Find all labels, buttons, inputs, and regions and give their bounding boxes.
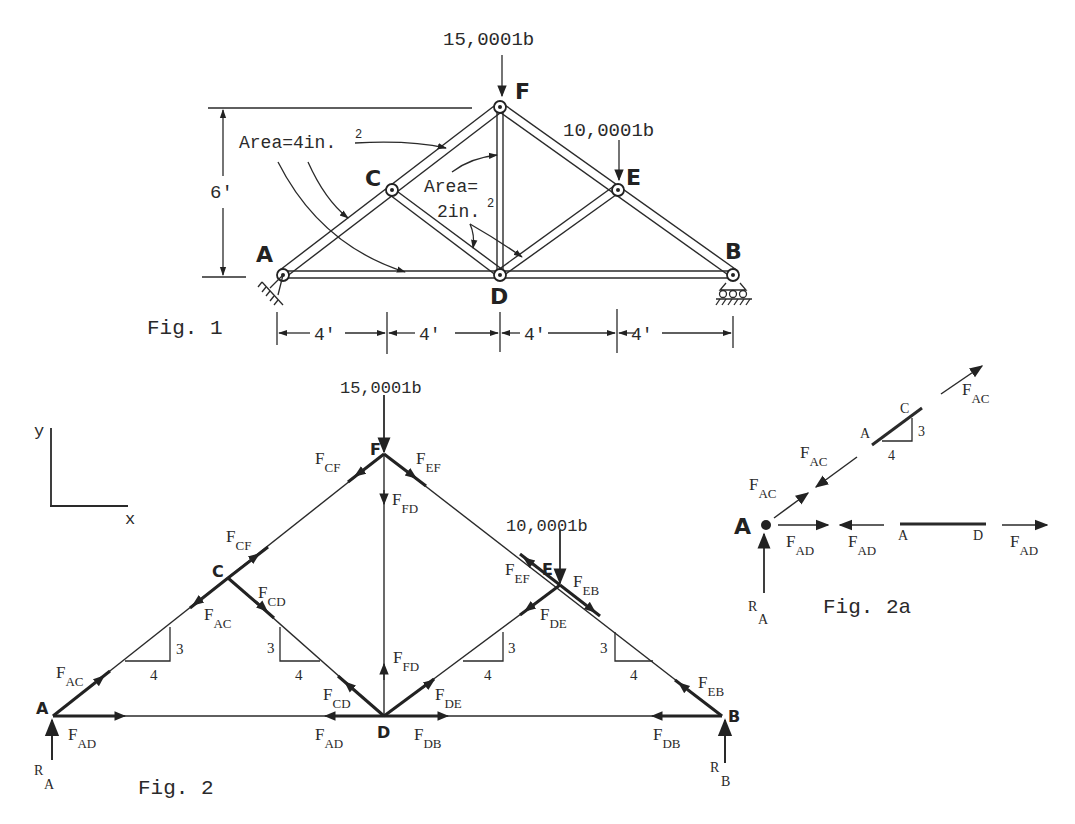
svg-text:4: 4 bbox=[888, 448, 895, 463]
figure-2a-caption: Fig. 2a bbox=[823, 596, 911, 619]
fbd-joint-a: A bbox=[36, 699, 49, 718]
fbd-joint-e: E bbox=[542, 560, 553, 579]
svg-text:FDB: FDB bbox=[414, 725, 442, 751]
svg-text:FEB: FEB bbox=[698, 673, 724, 699]
svg-text:FCF: FCF bbox=[315, 449, 340, 475]
span-label-eb: 4' bbox=[631, 325, 653, 345]
svg-text:FAD: FAD bbox=[1010, 532, 1038, 558]
slope-triangles: 4 3 4 3 4 3 4 3 bbox=[125, 627, 653, 683]
svg-text:D: D bbox=[973, 528, 983, 543]
pin-joints bbox=[277, 101, 739, 281]
joint-label-b: B bbox=[725, 239, 742, 264]
force-labels: FCF FEF FFD FCF FCD FAC FEF FEB FDE FAC … bbox=[56, 449, 724, 751]
fbd-joint-c: C bbox=[212, 562, 224, 581]
svg-text:3: 3 bbox=[600, 640, 608, 656]
reaction-b: R B bbox=[710, 720, 730, 789]
x-axis-label: x bbox=[125, 510, 135, 529]
svg-text:2in.: 2in. bbox=[437, 202, 480, 222]
svg-text:4: 4 bbox=[150, 667, 158, 683]
member-ac bbox=[872, 408, 922, 445]
svg-text:FFD: FFD bbox=[392, 490, 418, 516]
pin-support-a bbox=[258, 275, 283, 305]
fbd-load-f-label: 15,0001b bbox=[340, 379, 422, 398]
svg-text:R: R bbox=[748, 599, 758, 614]
truss-diagram: 15,0001b 10,0001b A B C D E F 6' bbox=[0, 0, 1075, 824]
area-webs-annotation: Area= 2in. 2 bbox=[424, 155, 522, 257]
svg-text:FDB: FDB bbox=[653, 725, 681, 751]
svg-text:2: 2 bbox=[355, 128, 362, 142]
svg-text:3: 3 bbox=[176, 641, 184, 657]
svg-text:FAC: FAC bbox=[962, 380, 990, 406]
joint-label-a: A bbox=[256, 242, 273, 267]
svg-text:FDE: FDE bbox=[435, 685, 462, 711]
svg-text:2: 2 bbox=[487, 197, 494, 211]
svg-text:FEF: FEF bbox=[416, 449, 441, 475]
coordinate-axes: y x bbox=[34, 422, 135, 529]
svg-text:A: A bbox=[758, 612, 769, 627]
svg-text:FCD: FCD bbox=[323, 685, 351, 711]
svg-text:FFD: FFD bbox=[393, 648, 419, 674]
svg-text:A: A bbox=[898, 528, 909, 543]
svg-text:FAC: FAC bbox=[749, 475, 777, 501]
svg-text:B: B bbox=[721, 774, 730, 789]
fig2a-joint-a: A bbox=[734, 514, 751, 539]
svg-text:FDE: FDE bbox=[540, 605, 567, 631]
span-dimensions: 4' 4' 4' 4' bbox=[277, 309, 733, 354]
figure-2-caption: Fig. 2 bbox=[138, 777, 214, 800]
svg-text:4: 4 bbox=[295, 667, 303, 683]
y-axis-label: y bbox=[34, 422, 44, 441]
svg-text:3: 3 bbox=[918, 424, 925, 439]
svg-text:FCD: FCD bbox=[258, 583, 286, 609]
joint-label-f: F bbox=[515, 79, 530, 104]
svg-text:4: 4 bbox=[630, 667, 638, 683]
joint-label-d: D bbox=[490, 284, 508, 309]
svg-text:R: R bbox=[34, 763, 44, 778]
force-arrows bbox=[92, 469, 690, 716]
svg-text:3: 3 bbox=[267, 640, 275, 656]
svg-text:FAC: FAC bbox=[800, 443, 828, 469]
figure-1-caption: Fig. 1 bbox=[147, 317, 223, 340]
svg-text:FAC: FAC bbox=[56, 663, 84, 689]
area-webs-label: Area= bbox=[424, 177, 478, 197]
reaction-a: R A bbox=[34, 720, 55, 792]
svg-text:C: C bbox=[900, 401, 909, 416]
figure-2a: A A C 3 4 A D FAC FAC FAC FAD FAD FAD R … bbox=[734, 366, 1047, 627]
load-f-label: 15,0001b bbox=[443, 29, 534, 51]
truss-members bbox=[280, 103, 738, 278]
span-label-ac: 4' bbox=[314, 325, 336, 345]
span-label-cd: 4' bbox=[419, 325, 441, 345]
fig2a-force-labels: FAC FAC FAC FAD FAD FAD bbox=[749, 380, 1038, 558]
area-chords-label: Area=4in. bbox=[239, 133, 336, 153]
height-label: 6' bbox=[210, 182, 233, 204]
figure-1: 15,0001b 10,0001b A B C D E F 6' bbox=[147, 29, 752, 354]
joint-label-c: C bbox=[365, 166, 381, 191]
svg-text:3: 3 bbox=[508, 640, 516, 656]
svg-text:R: R bbox=[710, 760, 720, 775]
svg-text:FAD: FAD bbox=[786, 532, 814, 558]
joint-label-e: E bbox=[626, 165, 641, 190]
svg-text:FAD: FAD bbox=[848, 532, 876, 558]
svg-text:FAC: FAC bbox=[204, 605, 232, 631]
joint-a-dot bbox=[761, 520, 771, 530]
svg-text:FAD: FAD bbox=[68, 725, 96, 751]
fbd-joint-b: B bbox=[728, 707, 740, 726]
svg-text:FCF: FCF bbox=[226, 527, 251, 553]
fbd-load-e-label: 10,0001b bbox=[506, 517, 588, 536]
svg-text:FAD: FAD bbox=[315, 725, 343, 751]
fbd-joint-d: D bbox=[377, 723, 390, 742]
svg-text:A: A bbox=[44, 777, 55, 792]
svg-text:4: 4 bbox=[484, 667, 492, 683]
fbd-joint-f: F bbox=[370, 440, 381, 459]
load-e-label: 10,0001b bbox=[563, 120, 654, 142]
svg-text:A: A bbox=[860, 426, 871, 441]
span-label-de: 4' bbox=[524, 325, 546, 345]
roller-support-b bbox=[716, 283, 752, 305]
figure-2: y x bbox=[34, 379, 740, 800]
svg-text:FEB: FEB bbox=[573, 572, 599, 598]
